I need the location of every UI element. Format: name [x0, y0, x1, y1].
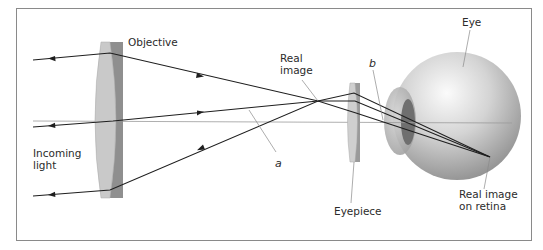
real-image-label-1: Real [280, 52, 303, 64]
retina-image-label-2: on retina [459, 200, 506, 212]
angle-a-label: a [275, 157, 282, 170]
incoming-light-label-2: light [33, 159, 56, 171]
eye-lens [401, 99, 415, 145]
angle-b-label: b [369, 57, 376, 70]
eye-label: Eye [462, 16, 481, 28]
retina-image-label-1: Real image [459, 188, 518, 200]
real-image-label-2: image [280, 64, 313, 76]
optical-axis-eye [380, 123, 512, 124]
telescope-ray-diagram: Objective Incoming light Real image a b … [0, 0, 543, 250]
objective-label: Objective [128, 36, 178, 48]
incoming-light-label-1: Incoming [33, 147, 81, 159]
eyepiece-label: Eyepiece [334, 205, 382, 217]
